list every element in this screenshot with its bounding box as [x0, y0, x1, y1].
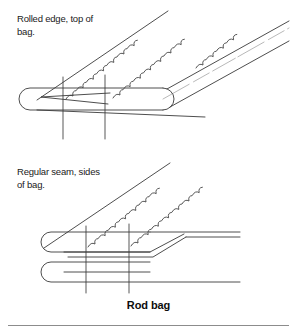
- stitch-line-top-3: [196, 34, 237, 68]
- stitch-line-bottom-1: [88, 188, 159, 247]
- tube-outline-top: [19, 88, 163, 110]
- tube-upper-extension: [167, 21, 289, 89]
- stitch-line-top-1: [66, 40, 137, 99]
- tube-outline-upper: [41, 232, 150, 252]
- annotation-regular-seam: Regular seam, sides of bag.: [17, 165, 137, 191]
- stitch-line-top-2: [113, 39, 184, 98]
- annotation-rolled-edge: Rolled edge, top of bag.: [17, 12, 137, 38]
- tube-right-cap-top: [163, 88, 174, 110]
- tube-lower-extension: [170, 41, 289, 107]
- bag-base-line-top: [37, 110, 205, 117]
- figure-caption: Rod bag: [0, 299, 297, 311]
- figure-page: Rolled edge, top of bag. Regular seam, s…: [0, 0, 297, 335]
- inner-fold-detail-top: [41, 93, 110, 104]
- fold-line-light: [163, 28, 289, 99]
